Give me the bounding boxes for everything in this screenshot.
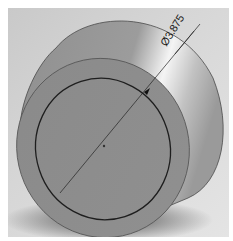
center-mark: [103, 145, 105, 147]
cad-viewport[interactable]: Ø3.875: [8, 8, 229, 237]
cylinder-model[interactable]: [8, 8, 229, 237]
